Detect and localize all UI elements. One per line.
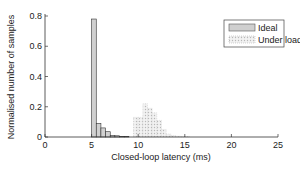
x-tick-label: 5 <box>89 140 94 150</box>
under-load-bar <box>138 117 143 137</box>
under-load-bar <box>143 104 148 137</box>
ideal-series-bars <box>92 19 129 137</box>
ideal-bar <box>106 132 111 137</box>
y-tick-label: 0.2 <box>29 102 42 112</box>
under-load-bar <box>134 117 139 137</box>
ideal-bar <box>96 123 101 137</box>
y-axis-label: Normalised number of samples <box>6 14 16 139</box>
x-tick-label: 25 <box>273 140 283 150</box>
x-tick-label: 0 <box>42 140 47 150</box>
legend-label-ideal: Ideal <box>258 23 278 33</box>
legend: Ideal Under load <box>224 20 300 47</box>
y-tick-label: 0.4 <box>29 72 42 82</box>
ideal-bar <box>92 19 97 137</box>
under-load-bar <box>166 134 171 137</box>
x-tick-label: 10 <box>133 140 143 150</box>
ideal-bar <box>101 128 106 137</box>
under-load-bar <box>162 129 167 137</box>
legend-swatch-under-load <box>229 36 255 43</box>
under-load-bar <box>152 113 157 137</box>
legend-swatch-ideal <box>229 24 255 31</box>
under-load-bar <box>148 108 153 137</box>
chart-canvas: 051015202500.20.40.60.8 Ideal Under load… <box>0 0 300 169</box>
y-tick-label: 0.6 <box>29 41 42 51</box>
y-tick-label: 0 <box>37 132 42 142</box>
y-tick-label: 0.8 <box>29 11 42 21</box>
x-tick-label: 15 <box>180 140 190 150</box>
latency-histogram-chart: 051015202500.20.40.60.8 Ideal Under load… <box>0 0 300 169</box>
x-tick-label: 20 <box>226 140 236 150</box>
legend-label-under-load: Under load <box>258 35 300 45</box>
under-load-series-bars <box>134 104 190 137</box>
under-load-bar <box>157 120 162 137</box>
x-axis-label: Closed-loop latency (ms) <box>111 152 211 162</box>
